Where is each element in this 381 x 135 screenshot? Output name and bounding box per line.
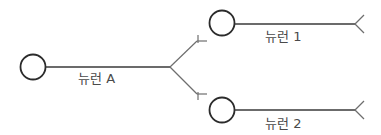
neuron-2-label: 뉴런 2 xyxy=(265,117,301,130)
neuron-a-branch-upper xyxy=(170,41,197,67)
neuron-1-cell-body xyxy=(210,11,235,36)
neuron-2-cell-body xyxy=(210,98,235,123)
neuron-a-cell-body xyxy=(21,55,46,80)
neuron-a-branch-lower xyxy=(170,67,197,94)
neuron-a xyxy=(21,35,208,100)
neuron-1-label: 뉴런 1 xyxy=(265,30,301,43)
neuron-1-terminal xyxy=(355,15,364,33)
neuron-diagram xyxy=(0,0,381,135)
neuron-a-terminal-upper xyxy=(197,35,207,43)
neuron-2-terminal xyxy=(355,101,364,119)
neuron-a-terminal-lower xyxy=(197,92,207,100)
neuron-a-label: 뉴런 A xyxy=(78,72,115,85)
